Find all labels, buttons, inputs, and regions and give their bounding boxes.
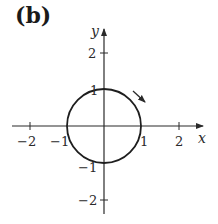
y-axis-label: y	[90, 23, 100, 39]
unit-circle-diagram: y x −2 −1 1 2 2 1 −1 −2	[0, 0, 218, 224]
orientation-arrow-icon	[133, 91, 145, 102]
x-tick-label-neg1: −1	[50, 134, 69, 149]
y-tick-label-1: 1	[90, 83, 98, 98]
x-tick-label-1: 1	[140, 134, 148, 149]
y-tick-label-neg1: −1	[78, 160, 97, 175]
x-tick-label-neg2: −2	[17, 134, 36, 149]
y-tick-label-2: 2	[88, 46, 96, 61]
x-axis-label: x	[198, 130, 206, 146]
x-tick-label-2: 2	[175, 134, 183, 149]
y-tick-label-neg2: −2	[78, 193, 97, 208]
